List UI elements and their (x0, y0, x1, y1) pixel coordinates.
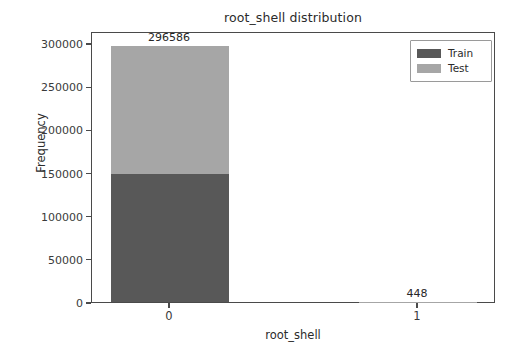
y-axis-tick-label: 300000 (41, 38, 83, 51)
bar-value-label: 296586 (148, 31, 190, 44)
bar-stack[interactable] (111, 46, 229, 302)
y-axis-tick-label: 150000 (41, 167, 83, 180)
x-axis-label: root_shell (91, 328, 495, 342)
x-axis-tick-mark (168, 303, 169, 308)
bar-segment-test[interactable] (111, 46, 229, 174)
y-axis-label: Frequency (34, 83, 48, 203)
legend-item-train[interactable]: Train (417, 46, 485, 61)
bar-value-label: 448 (407, 287, 428, 300)
y-axis-tick-label: 0 (76, 297, 83, 310)
y-axis-tick-label: 50000 (48, 253, 83, 266)
x-axis-tick-label: 1 (413, 309, 420, 323)
legend-item-test[interactable]: Test (417, 61, 485, 76)
chart-figure: root_shell distribution Frequency 050000… (0, 0, 521, 358)
y-axis-tick-label: 100000 (41, 210, 83, 223)
legend-swatch-train (417, 49, 441, 58)
x-axis-tick-mark (416, 303, 417, 308)
legend-label: Train (448, 48, 473, 59)
chart-legend[interactable]: TrainTest (410, 40, 492, 82)
legend-swatch-test (417, 64, 441, 73)
chart-title: root_shell distribution (91, 10, 495, 25)
legend-label: Test (448, 63, 469, 74)
y-axis-tick-label: 200000 (41, 124, 83, 137)
bar-segment-train[interactable] (111, 174, 229, 302)
x-axis-tick-label: 0 (165, 309, 172, 323)
y-axis-tick-label: 250000 (41, 81, 83, 94)
